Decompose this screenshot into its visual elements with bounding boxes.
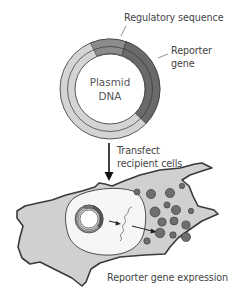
transfect-arrow [105,143,114,181]
reporter-gene-label-line2: gene [171,58,195,70]
reporter-expression-caption: Reporter gene expression [107,272,228,284]
transfect-label-line2: recipient cells [117,158,182,170]
plasmid-ring [60,39,160,139]
transfect-label-line1: Transfect [117,145,160,157]
plasmid-dna-label-line2: DNA [85,90,135,103]
reporter-gene-label-line1: Reporter [171,45,212,57]
diagram: Regulatory sequence Reporter gene Plasmi… [0,0,239,297]
reporter-leader-line [158,54,168,58]
plasmid-dna-label-line1: Plasmid [85,76,135,89]
regulatory-sequence-label: Regulatory sequence [124,12,224,24]
regulatory-leader-line [121,26,126,36]
